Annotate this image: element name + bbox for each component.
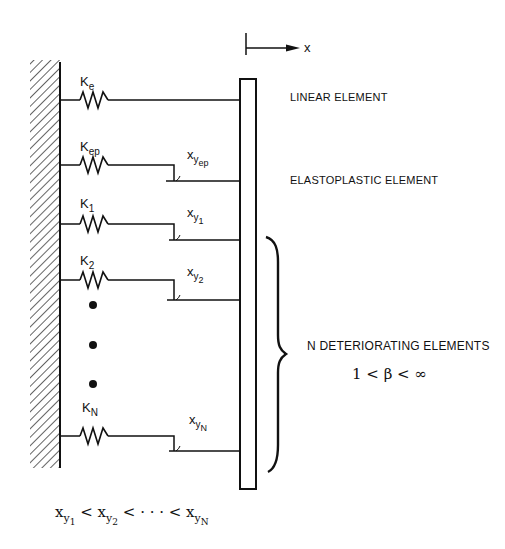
ellipsis-dots [89, 301, 97, 388]
deteriorating-element-1 [60, 216, 240, 240]
rigid-bar [240, 79, 256, 489]
deteriorating-element-n [60, 428, 240, 451]
deteriorating-element-2 [60, 272, 240, 300]
spring-label-k2: K2 [80, 253, 94, 271]
spring-label-k1: K1 [80, 196, 94, 214]
x-axis-arrow [246, 33, 300, 55]
slip-label-xyep: xyep [187, 147, 209, 168]
yield-ordering: xy1 < xy2 < · · · < xyN [55, 503, 209, 527]
fixed-wall-lower [30, 348, 60, 468]
diagram-canvas [0, 0, 505, 549]
deteriorating-group-label: N DETERIORATING ELEMENTS [307, 339, 490, 353]
elastoplastic-element-label: ELASTOPLASTIC ELEMENT [290, 174, 438, 186]
linear-element [60, 92, 240, 108]
x-axis-label: x [304, 40, 311, 55]
elastoplastic-element [60, 157, 240, 181]
linear-element-label: LINEAR ELEMENT [290, 91, 388, 103]
spring-label-kep: Kep [80, 139, 100, 157]
spring-label-kn: KN [82, 400, 98, 418]
spring-label-ke: Ke [80, 74, 94, 92]
slip-label-xy1: xy1 [187, 205, 204, 226]
fixed-wall [30, 60, 60, 348]
group-brace [266, 237, 286, 472]
beta-range: 1 < β < ∞ [352, 365, 427, 383]
slip-label-xyn: xyN [189, 412, 207, 433]
slip-label-xy2: xy2 [187, 264, 204, 285]
